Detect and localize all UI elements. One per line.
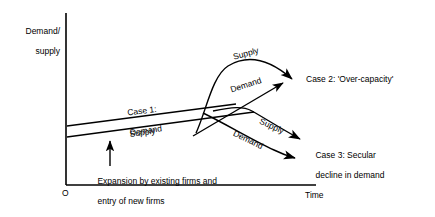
origin-label: O <box>62 188 69 198</box>
y-axis-label-line2: supply <box>35 46 60 56</box>
y-axis-label-line1: Demand/ <box>26 26 61 36</box>
case2-label: Case 2: 'Over-capacity' <box>306 74 393 84</box>
expansion-annotation-line2: entry of new firms <box>97 196 164 206</box>
y-axis-label: Demand/ supply <box>8 16 60 66</box>
expansion-annotation-line1: Expansion by existing firms and <box>97 176 217 186</box>
expansion-annotation: Expansion by existing firms and entry of… <box>88 166 217 216</box>
case3-supply-curve <box>213 108 300 139</box>
case3-label-line1: Case 3: Secular <box>315 150 375 160</box>
case3-label: Case 3: Secular decline in demand <box>306 140 384 190</box>
figure-canvas: Demand/ supply Time O Case 1: Demand Sup… <box>0 0 435 217</box>
case1-demand-label-line1: Case 1: <box>127 104 157 118</box>
case1-demand-label: Case 1: Demand <box>116 94 164 149</box>
case3-label-line2: decline in demand <box>315 170 384 180</box>
x-axis-label: Time <box>305 190 324 200</box>
